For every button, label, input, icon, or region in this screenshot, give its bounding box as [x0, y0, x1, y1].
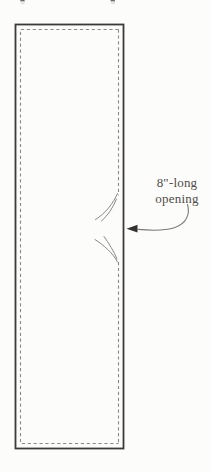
annotation-arrow-shaft [138, 205, 188, 231]
cropped-text-artifact-left [20, 1, 24, 4]
fabric-panel-outline [16, 25, 124, 449]
opening-label-line2: opening [143, 191, 210, 207]
annotation-arrowhead-icon [127, 225, 138, 233]
opening-tick-bottom-outer [95, 240, 118, 263]
opening-label-line1: 8"-long [143, 175, 210, 191]
opening-tick-top-inner [102, 199, 117, 221]
cropped-text-artifact-right [111, 1, 115, 4]
fabric-panel-diagram [0, 0, 210, 472]
diagram-canvas: 8"-long opening [0, 0, 210, 472]
opening-label: 8"-long opening [143, 175, 210, 206]
